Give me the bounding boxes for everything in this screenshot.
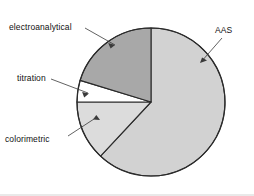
figure-bottom-edge [0, 194, 254, 196]
callout-electroanalytical [85, 28, 115, 49]
pie-chart-figure: electroanalytical titration colorimetric… [0, 0, 254, 196]
leader-line-electroanalytical [85, 28, 115, 45]
pie-label-titration: titration [17, 74, 46, 83]
pie-label-aas: AAS [215, 26, 232, 35]
pie-label-colorimetric: colorimetric [5, 135, 50, 144]
pie-label-electroanalytical: electroanalytical [9, 23, 72, 32]
